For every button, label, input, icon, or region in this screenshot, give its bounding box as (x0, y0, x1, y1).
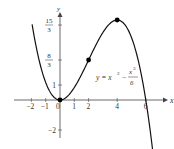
x-tick-label: 0 (56, 102, 60, 111)
y-tick-label-denominator: 3 (47, 26, 51, 34)
equation-minus: − (122, 73, 126, 82)
equation-denominator: 6 (130, 79, 134, 87)
data-point (115, 18, 120, 23)
x-tick-label: 2 (87, 102, 91, 111)
equation-numerator-exponent: 3 (133, 66, 136, 71)
y-tick-label: −2 (48, 126, 56, 135)
y-tick-label-numerator: 15 (46, 17, 54, 25)
equation-lhs: y = x (95, 73, 112, 82)
axes (14, 12, 168, 138)
highlighted-points (58, 18, 120, 103)
function-graph: xy−2−101246153831−2 y = x2−x36 (0, 0, 174, 149)
x-tick-label: 6 (144, 102, 148, 111)
data-point (86, 58, 91, 63)
x-tick-label: 4 (115, 102, 119, 111)
x-tick-label: −2 (26, 102, 34, 111)
x-tick-label: 1 (72, 102, 76, 111)
y-tick-label-numerator: 8 (47, 52, 51, 60)
y-axis-label: y (56, 5, 61, 13)
y-tick-label: 1 (52, 81, 56, 90)
y-tick-label-denominator: 3 (47, 61, 51, 69)
x-tick-label: −1 (41, 102, 49, 111)
x-axis-arrow-icon (163, 98, 168, 103)
equation-exponent: 2 (117, 71, 120, 76)
plot-canvas: xy−2−101246153831−2 y = x2−x36 (0, 0, 174, 149)
axis-labels: xy−2−101246153831−2 (26, 5, 174, 135)
equation-label: y = x2−x36 (95, 66, 138, 87)
x-axis-label: x (169, 96, 174, 105)
